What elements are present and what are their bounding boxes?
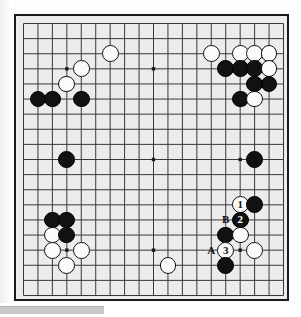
- page-gutter-bar: [0, 306, 104, 314]
- point-label-a[interactable]: A: [204, 243, 218, 257]
- page-left-shade: [0, 0, 12, 317]
- point-label-b[interactable]: B: [219, 213, 233, 227]
- go-board-surface[interactable]: 123 BA: [14, 14, 289, 301]
- go-board-figure: 123 BA: [0, 0, 301, 317]
- go-point-label-layer: BA: [16, 16, 291, 303]
